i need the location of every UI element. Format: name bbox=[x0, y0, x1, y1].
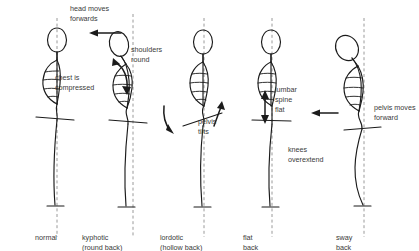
rib-line-3-sway-back bbox=[346, 96, 362, 97]
caption-kyphotic-line1: kyphotic bbox=[82, 233, 109, 242]
head-moves-arrowhead bbox=[89, 30, 98, 37]
annotation-pelvis-tilts: pelvis tilts bbox=[164, 101, 225, 136]
caption-flat-line1: flat bbox=[243, 233, 253, 242]
head-sway-back bbox=[331, 31, 363, 64]
figure-normal bbox=[36, 18, 74, 237]
rib-line-2-flat-back bbox=[258, 82, 276, 83]
annotation-knees-overextend: knees overextend bbox=[288, 145, 324, 164]
caption-normal-line1: normal bbox=[35, 233, 57, 242]
label-pelvis-moves-line1: pelvis moves bbox=[374, 103, 416, 112]
label-lumbar-line2: spine bbox=[275, 95, 292, 104]
rib-line-4-sway-back bbox=[350, 104, 360, 105]
rib-line-4-lordotic bbox=[196, 99, 206, 100]
rib-line-2-lordotic bbox=[190, 82, 208, 83]
rib-line-3-flat-back bbox=[260, 91, 275, 92]
label-lumbar-line1: lumbar bbox=[275, 85, 298, 94]
ribcage-front-normal bbox=[43, 60, 57, 104]
rib-line-1-flat-back bbox=[260, 73, 275, 74]
figure-flat-back bbox=[252, 18, 291, 237]
label-knees-line2: overextend bbox=[288, 155, 324, 164]
caption-kyphotic-line2: (round back) bbox=[82, 243, 122, 251]
rib-line-2-sway-back bbox=[344, 87, 363, 88]
head-flat-back bbox=[262, 30, 281, 54]
spine-upper-kyphotic bbox=[121, 56, 129, 108]
label-pelvis-tilts-line2: tilts bbox=[198, 127, 209, 136]
annotation-pelvis-moves-forward: pelvis moves forward bbox=[311, 103, 416, 122]
annotation-head-moves-forwards: head moves forwards bbox=[70, 4, 121, 37]
caption-lordotic-line1: lordotic bbox=[160, 233, 184, 242]
annotation-chest-is-compressed: chest is compressed bbox=[55, 73, 94, 92]
head-kyphotic bbox=[107, 30, 131, 58]
pelvis-tilts-arrowhead-right bbox=[217, 101, 225, 110]
label-head-moves-line2: forwards bbox=[70, 14, 98, 23]
posture-diagram: head moves forwards shoulders round ches… bbox=[0, 0, 419, 251]
leg-sway-back bbox=[355, 129, 363, 205]
label-chest-line1: chest is bbox=[55, 73, 80, 82]
label-chest-line2: compressed bbox=[55, 83, 94, 92]
label-pelvis-moves-line2: forward bbox=[374, 113, 398, 122]
figure-sway-back bbox=[331, 18, 381, 237]
rib-line-3-lordotic bbox=[192, 91, 207, 92]
leg-kyphotic bbox=[125, 124, 128, 206]
label-pelvis-tilts-line1: pelvis bbox=[198, 117, 217, 126]
pelvis-bar-flat-back bbox=[252, 120, 291, 121]
lumbar-normal bbox=[56, 104, 57, 120]
leg-lordotic bbox=[201, 126, 203, 206]
head-lordotic bbox=[194, 30, 213, 54]
caption-flat-line2: back bbox=[243, 243, 259, 251]
label-lumbar-line3: flat bbox=[275, 105, 285, 114]
label-head-moves-line1: head moves bbox=[70, 4, 110, 13]
lumbar-sway-back bbox=[358, 111, 362, 129]
spine-upper-sway-back bbox=[352, 58, 361, 111]
caption-sway-line1: sway bbox=[336, 233, 353, 242]
captions: normal kyphotic (round back) lordotic (h… bbox=[35, 233, 353, 251]
pelvis-bar-normal bbox=[36, 117, 74, 120]
rib-line-1-sway-back bbox=[346, 77, 362, 78]
diagram-canvas: head moves forwards shoulders round ches… bbox=[0, 0, 419, 251]
caption-sway-line2: back bbox=[336, 243, 352, 251]
pelvis-moves-arrowhead bbox=[311, 110, 320, 117]
label-shoulders-line2: round bbox=[131, 55, 149, 64]
caption-lordotic-line2: (hollow back) bbox=[160, 243, 202, 251]
label-shoulders-line1: shoulders bbox=[131, 45, 163, 54]
rib-line-1-lordotic bbox=[192, 73, 207, 74]
lumbar-arrowhead-bottom bbox=[261, 115, 269, 124]
label-knees-line1: knees bbox=[288, 145, 308, 154]
